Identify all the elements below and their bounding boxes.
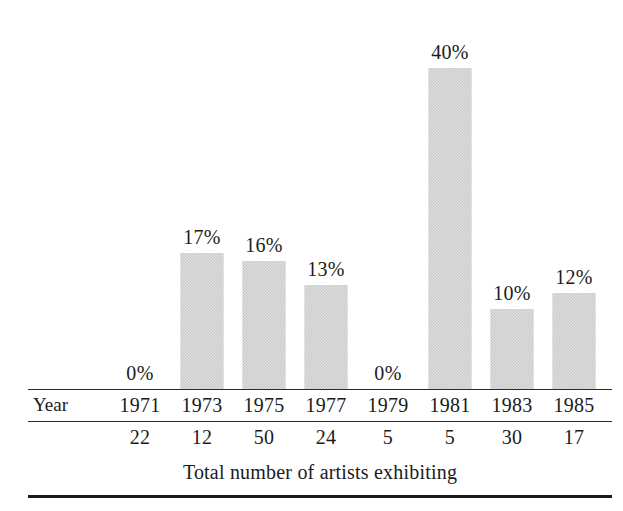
row-header-year: Year (33, 394, 68, 416)
bar-1981 (429, 68, 472, 389)
total-cell: 50 (254, 426, 275, 449)
year-cell: 1971 (119, 394, 160, 417)
year-cell: 1983 (491, 394, 532, 417)
data-table: Year 1971 1973 1975 1977 1979 1981 1983 … (28, 389, 612, 511)
year-cell: 1979 (367, 394, 408, 417)
bar-chart-figure: 0% 17% 16% 13% 0% 40% 10% 12% (0, 0, 623, 511)
bar-value-label: 10% (493, 283, 531, 303)
total-cell: 24 (316, 426, 337, 449)
table-row: Year 1971 1973 1975 1977 1979 1981 1983 … (28, 389, 612, 421)
year-cell: 1981 (429, 394, 470, 417)
total-cell: 5 (383, 426, 393, 449)
plot-area: 0% 17% 16% 13% 0% 40% 10% 12% (0, 0, 623, 389)
total-cell: 17 (564, 426, 585, 449)
total-cell: 12 (192, 426, 213, 449)
bar-value-label: 17% (183, 227, 221, 247)
bar-1977 (305, 285, 348, 389)
total-cell: 22 (130, 426, 151, 449)
bar-value-label: 12% (555, 267, 593, 287)
bar-column: 10% (481, 0, 543, 389)
bar-value-label: 16% (245, 235, 283, 255)
bar-1975 (243, 261, 286, 389)
bar-1973 (181, 253, 224, 389)
bar-value-label: 0% (126, 363, 153, 383)
year-cell: 1985 (553, 394, 594, 417)
bar-value-label: 0% (374, 363, 401, 383)
bar-1985 (553, 293, 596, 389)
table-rule-bottom (28, 495, 612, 498)
table-row: 22 12 50 24 5 5 30 17 (28, 421, 612, 453)
year-cell: 1977 (305, 394, 346, 417)
table-caption: Total number of artists exhibiting (28, 455, 612, 489)
year-cell: 1975 (243, 394, 284, 417)
bar-column: 0% (109, 0, 171, 389)
bar-column: 16% (233, 0, 295, 389)
bar-column: 0% (357, 0, 419, 389)
bar-column: 12% (543, 0, 605, 389)
total-cell: 30 (502, 426, 523, 449)
bar-column: 17% (171, 0, 233, 389)
total-cell: 5 (445, 426, 455, 449)
bar-1983 (491, 309, 534, 389)
bar-value-label: 13% (307, 259, 345, 279)
bar-column: 13% (295, 0, 357, 389)
year-cell: 1973 (181, 394, 222, 417)
bar-value-label: 40% (431, 42, 469, 62)
bar-column: 40% (419, 0, 481, 389)
